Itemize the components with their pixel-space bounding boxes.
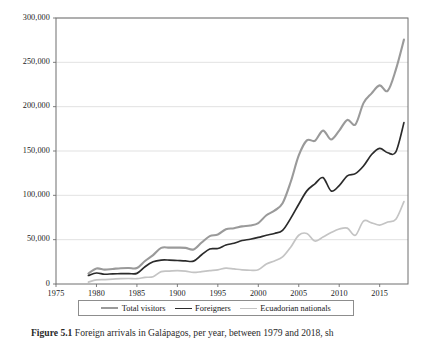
- series-lines: [88, 40, 404, 283]
- x-tick-label: 2005: [279, 290, 319, 298]
- series-line: [88, 123, 404, 276]
- caption-label: Figure 5.1: [31, 327, 72, 338]
- x-tick-label: 2010: [319, 290, 359, 298]
- x-tick-label: 2015: [360, 290, 400, 298]
- legend-item: Total visitors: [101, 304, 165, 313]
- y-tick-label: 50,000: [0, 235, 50, 243]
- legend-item: Ecuadorian nationals: [240, 304, 331, 313]
- gridlines: [56, 18, 408, 240]
- y-tick-label: 0: [0, 280, 50, 288]
- y-tick-label: 100,000: [0, 191, 50, 199]
- series-line: [88, 40, 404, 274]
- x-tick-label: 1975: [36, 290, 76, 298]
- x-tick-label: 1900: [157, 290, 197, 298]
- legend-label: Foreigners: [195, 304, 231, 313]
- legend-swatch: [240, 308, 257, 309]
- legend-item: Foreigners: [175, 304, 231, 313]
- legend-label: Total visitors: [122, 304, 166, 313]
- x-tick-label: 1995: [198, 290, 238, 298]
- caption-text: Foreign arrivals in Galápagos, per year,…: [75, 327, 334, 338]
- x-tick-label: 1985: [117, 290, 157, 298]
- x-tick-label: 2000: [238, 290, 278, 298]
- y-tick-label: 200,000: [0, 102, 50, 110]
- figure-caption: Figure 5.1 Foreign arrivals in Galápagos…: [31, 327, 423, 338]
- legend-swatch: [175, 308, 192, 309]
- chart-legend: Total visitorsForeignersEcuadorian natio…: [78, 300, 354, 316]
- legend-swatch: [101, 307, 118, 309]
- y-tick-label: 300,000: [0, 14, 50, 22]
- y-tick-label: 150,000: [0, 147, 50, 155]
- x-tick-label: 1980: [76, 290, 116, 298]
- series-line: [88, 202, 404, 283]
- legend-label: Ecuadorian nationals: [260, 304, 330, 313]
- y-tick-label: 250,000: [0, 58, 50, 66]
